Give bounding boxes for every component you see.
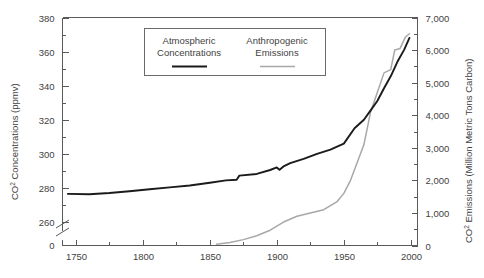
svg-text:CO2 Concentrations (ppmv): CO2 Concentrations (ppmv): [9, 83, 20, 200]
x-tick-label-1900: 1900: [267, 251, 288, 262]
y-axis-right-tick-labels: 01,0002,0003,0004,0005,0006,0007,000: [426, 13, 450, 252]
y-right-tick-label-3000: 3,000: [426, 143, 450, 154]
x-tick-label-1950: 1950: [334, 251, 355, 262]
legend-label-emissions-line1: Anthropogenic: [246, 35, 308, 46]
chart-canvas: 2602803003203403603800 01,0002,0003,0004…: [0, 0, 484, 278]
y-left-tick-label-280: 280: [39, 183, 55, 194]
x-tick-label-1850: 1850: [200, 251, 221, 262]
y-left-tick-label-380: 380: [39, 13, 55, 24]
y-left-tick-label-300: 300: [39, 149, 55, 160]
y-right-tick-label-1000: 1,000: [426, 208, 450, 219]
x-axis-ticks: [77, 240, 412, 246]
y-axis-left-tick-labels: 2602803003203403603800: [39, 13, 55, 251]
y-axis-left-title: CO2 Concentrations (ppmv): [9, 83, 20, 200]
y-left-title-rest: Concentrations (ppmv): [9, 83, 20, 182]
y-right-tick-label-6000: 6,000: [426, 45, 450, 56]
co2-chart-figure: 2602803003203403603800 01,0002,0003,0004…: [0, 0, 484, 278]
y-left-tick-label-340: 340: [39, 81, 55, 92]
y-right-tick-label-2000: 2,000: [426, 175, 450, 186]
svg-text:CO2 Emissions (Million Metric: CO2 Emissions (Million Metric Tons Carbo…: [463, 58, 474, 243]
legend-label-emissions-line2: Emissions: [255, 47, 299, 58]
x-axis-tick-labels: 175018001850190019502000: [66, 251, 422, 262]
y-left-baseline-label: 0: [49, 240, 54, 251]
y-left-tick-label-320: 320: [39, 115, 55, 126]
legend-label-concentrations-line1: Atmospheric: [163, 35, 216, 46]
x-tick-label-2000: 2000: [401, 251, 422, 262]
x-tick-label-1800: 1800: [133, 251, 154, 262]
y-right-tick-label-7000: 7,000: [426, 13, 450, 24]
y-axis-right-title: CO2 Emissions (Million Metric Tons Carbo…: [463, 58, 474, 243]
legend-label-concentrations-line2: Concentrations: [157, 47, 221, 58]
y-right-tick-label-4000: 4,000: [426, 110, 450, 121]
y-right-tick-label-0: 0: [426, 241, 431, 252]
y-axis-right-ticks: [412, 19, 418, 247]
y-left-tick-label-360: 360: [39, 47, 55, 58]
y-axis-left-ticks: [63, 19, 69, 223]
y-right-title-rest: Emissions (Million Metric Tons Carbon): [463, 58, 474, 225]
y-right-title-co: CO: [463, 229, 474, 243]
y-left-title-co: CO: [9, 186, 20, 200]
y-right-tick-label-5000: 5,000: [426, 78, 450, 89]
y-left-tick-label-260: 260: [39, 217, 55, 228]
x-tick-label-1750: 1750: [66, 251, 87, 262]
chart-legend: Atmospheric Concentrations Anthropogenic…: [145, 29, 326, 76]
